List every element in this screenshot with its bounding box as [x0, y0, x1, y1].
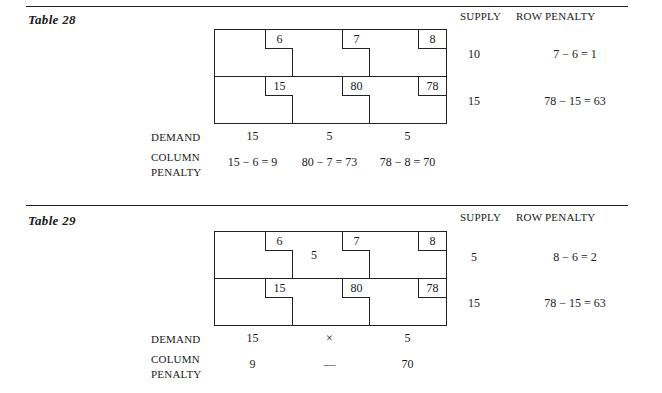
cost-cell: 8 — [418, 30, 446, 49]
demand-value: 5 — [291, 129, 368, 144]
cost-cell: 80 — [342, 279, 370, 298]
cost-cell: 7 — [342, 232, 370, 251]
supply-value: 15 — [462, 296, 486, 311]
cost-cell: 15 — [265, 77, 293, 96]
column-penalty-label: COLUMN PENALTY — [151, 352, 202, 382]
cost-cell: 80 — [342, 77, 370, 96]
transportation-grid: 6 7 8 15 80 78 — [214, 29, 447, 124]
top-rule — [26, 6, 628, 7]
demand-label: DEMAND — [151, 332, 200, 347]
demand-value: 15 — [214, 129, 291, 144]
cost-cell: 15 — [265, 279, 293, 298]
demand-value: × — [291, 331, 368, 346]
supply-value: 10 — [462, 47, 486, 62]
column-penalty-label-line: COLUMN — [151, 352, 202, 367]
column-penalty-value: — — [291, 357, 368, 372]
allocation-value: 5 — [311, 248, 317, 263]
cost-cell: 8 — [418, 232, 446, 251]
table-29-section: Table 29 SUPPLY ROW PENALTY 6 7 8 15 80 … — [0, 199, 662, 393]
row-penalty-header: ROW PENALTY — [516, 10, 596, 22]
column-penalty-label: COLUMN PENALTY — [151, 150, 202, 180]
row-penalty-header: ROW PENALTY — [516, 211, 596, 223]
row-penalty-value: 8 − 6 = 2 — [520, 250, 630, 265]
grid-divider — [215, 76, 446, 77]
column-penalty-value: 78 − 8 = 70 — [368, 155, 447, 170]
cost-cell: 6 — [265, 232, 293, 251]
column-penalty-label-line: PENALTY — [151, 367, 202, 382]
grid-divider — [215, 278, 446, 279]
table-title: Table 29 — [28, 213, 76, 229]
column-penalty-value: 80 − 7 = 73 — [291, 155, 368, 170]
column-penalty-label-line: PENALTY — [151, 165, 202, 180]
demand-label: DEMAND — [151, 130, 200, 145]
row-penalty-value: 78 − 15 = 63 — [520, 94, 630, 109]
cost-cell: 78 — [418, 279, 446, 298]
table-title: Table 28 — [28, 12, 76, 28]
row-penalty-value: 78 − 15 = 63 — [520, 296, 630, 311]
column-penalty-value: 9 — [214, 357, 291, 372]
supply-value: 5 — [462, 250, 486, 265]
supply-header: SUPPLY — [460, 211, 501, 223]
top-rule — [26, 205, 628, 206]
cost-cell: 78 — [418, 77, 446, 96]
column-penalty-value: 70 — [368, 357, 447, 372]
cost-cell: 7 — [342, 30, 370, 49]
supply-value: 15 — [462, 94, 486, 109]
column-penalty-value: 15 − 6 = 9 — [214, 155, 291, 170]
table-28-section: Table 28 SUPPLY ROW PENALTY 6 7 8 15 80 … — [0, 0, 662, 200]
cost-cell: 6 — [265, 30, 293, 49]
supply-header: SUPPLY — [460, 10, 501, 22]
demand-value: 5 — [368, 129, 447, 144]
transportation-grid: 6 7 8 15 80 78 5 — [214, 231, 447, 326]
column-penalty-label-line: COLUMN — [151, 150, 202, 165]
row-penalty-value: 7 − 6 = 1 — [520, 47, 630, 62]
demand-value: 5 — [368, 331, 447, 346]
demand-value: 15 — [214, 331, 291, 346]
